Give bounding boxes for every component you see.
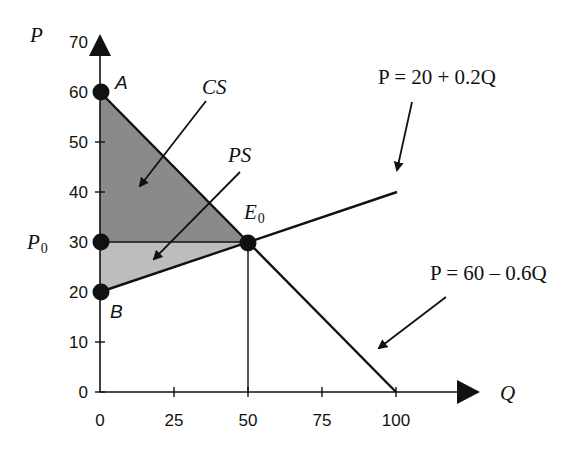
label-p0: P0: [26, 230, 48, 256]
svg-text:0: 0: [95, 411, 104, 430]
x-tick-labels: 0 25 50 75 100: [95, 411, 410, 430]
point-b: [93, 284, 110, 301]
y-axis-title: P: [29, 23, 43, 47]
y-axis-arrow-icon: [89, 34, 111, 56]
point-e0: [240, 235, 257, 252]
demand-equation-arrow-icon: [379, 297, 446, 348]
demand-equation-label: P = 60 – 0.6Q: [430, 261, 547, 285]
y-tick-labels: 0 10 20 30 40 50 60 70: [69, 33, 88, 402]
supply-equation-arrow-icon: [397, 102, 412, 170]
svg-text:70: 70: [69, 33, 88, 52]
svg-text:25: 25: [165, 411, 184, 430]
svg-text:30: 30: [69, 233, 88, 252]
x-axis-title: Q: [500, 381, 515, 405]
x-axis-arrow-icon: [457, 380, 480, 404]
label-ps: PS: [227, 143, 252, 167]
svg-text:75: 75: [313, 411, 332, 430]
svg-text:100: 100: [382, 411, 410, 430]
label-b: B: [110, 301, 123, 322]
svg-text:50: 50: [239, 411, 258, 430]
point-p0: [93, 234, 110, 251]
supply-equation-label: P = 20 + 0.2Q: [378, 65, 496, 89]
svg-text:60: 60: [69, 83, 88, 102]
label-cs: CS: [202, 75, 227, 99]
svg-text:40: 40: [69, 183, 88, 202]
label-e0: E0: [243, 200, 265, 226]
svg-text:10: 10: [69, 333, 88, 352]
svg-text:50: 50: [69, 133, 88, 152]
svg-text:20: 20: [69, 283, 88, 302]
surplus-chart: 0 10 20 30 40 50 60 70 0 25 50 75 100 P …: [0, 0, 587, 454]
label-a: A: [114, 72, 128, 93]
point-a: [93, 84, 110, 101]
svg-text:0: 0: [79, 383, 88, 402]
